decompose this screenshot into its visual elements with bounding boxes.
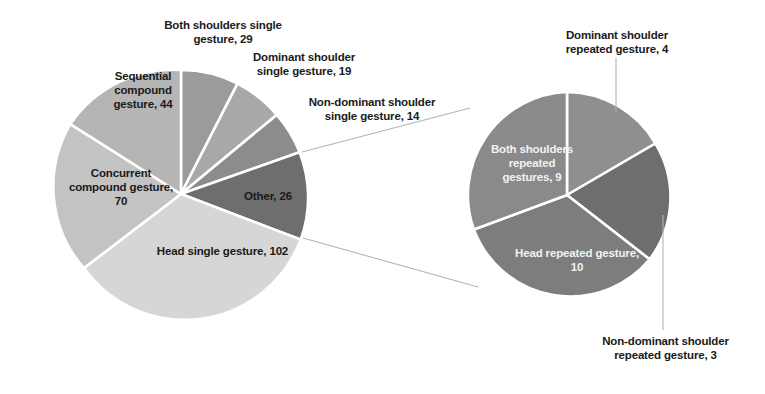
label-dominant-shoulder-single: Dominant shoulder single gesture, 19 [224, 50, 384, 78]
label-dominant-shoulder-repeated: Dominant shoulder repeated gesture, 4 [537, 28, 697, 56]
label-both-shoulders-single: Both shoulders single gesture, 29 [128, 18, 318, 46]
label-other: Other, 26 [218, 189, 318, 203]
breakout-connector-bottom-line [303, 238, 478, 287]
label-sequential-compound: Sequential compound gesture, 44 [88, 69, 198, 111]
label-non-dominant-shoulder-single: Non-dominant shoulder single gesture, 14 [277, 95, 467, 123]
label-head-repeated: Head repeated gesture, 10 [497, 246, 657, 274]
label-head-single: Head single gesture, 102 [135, 244, 310, 258]
breakout-connector-lines [302, 108, 478, 287]
pie-chart-figure: Both shoulders single gesture, 29 Domina… [0, 0, 765, 394]
label-both-shoulders-repeated: Both shoulders repeated gestures, 9 [472, 142, 592, 184]
label-concurrent-compound: Concurrent compound gesture, 70 [56, 166, 186, 208]
label-non-dominant-shoulder-repeated: Non-dominant shoulder repeated gesture, … [583, 334, 748, 362]
